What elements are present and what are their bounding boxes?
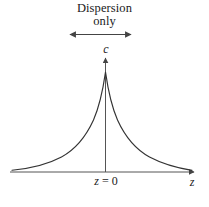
dispersion-only-figure: Dispersion only c z z = 0	[0, 0, 209, 207]
x-axis-label: z	[183, 176, 201, 189]
y-axis-label: c	[95, 43, 117, 56]
concentration-curve	[12, 72, 192, 170]
origin-tick-label: z = 0	[80, 175, 132, 188]
origin-value: = 0	[99, 174, 118, 188]
